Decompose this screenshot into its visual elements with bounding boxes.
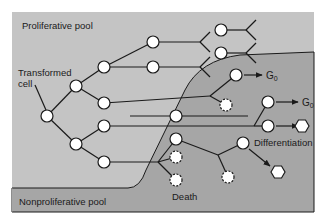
differentiating-cell [262,120,274,132]
cell [98,61,110,73]
cell [70,138,82,150]
proliferative-pool-label: Proliferative pool [22,20,93,31]
cell [70,80,82,92]
cell-proliferation-diagram: Proliferative pool Nonproliferative pool… [0,0,327,223]
transformed-cell [41,110,53,122]
cell [98,156,110,168]
cell [215,47,227,59]
cell [98,97,110,109]
g0-cell [230,69,242,81]
cell [147,36,159,48]
transformed-cell-label-line2: cell [18,78,32,89]
cell [147,61,159,73]
dying-cell [170,151,182,163]
transformed-cell-label-line1: Transformed [18,67,72,78]
cell [170,110,182,122]
dying-cell [222,171,234,183]
cell [98,120,110,132]
g0-cell [262,96,274,108]
dying-cell [170,174,182,186]
differentiated-cell-hexagon [271,166,285,178]
nonproliferative-pool-label: Nonproliferative pool [19,196,106,207]
differentiated-cell-hexagon [295,120,309,132]
death-label: Death [172,191,197,202]
differentiating-cell [237,137,249,149]
differentiation-label: Differentiation [254,137,312,148]
cell [170,133,182,145]
dying-cell [220,99,232,111]
cell [215,24,227,36]
